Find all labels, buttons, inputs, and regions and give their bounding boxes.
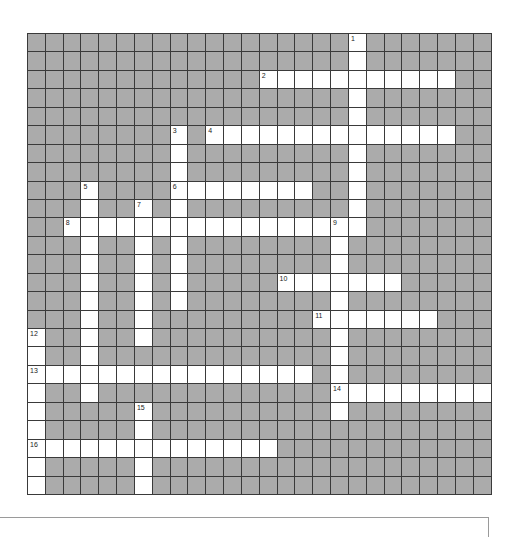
answer-cell[interactable] [205,181,223,199]
answer-cell[interactable] [348,107,366,125]
answer-cell[interactable] [223,439,241,457]
answer-cell[interactable] [348,51,366,69]
answer-cell[interactable]: 10 [277,273,295,291]
answer-cell[interactable]: 8 [63,217,81,235]
answer-cell[interactable] [259,365,277,383]
answer-cell[interactable] [45,365,63,383]
answer-cell[interactable] [348,273,366,291]
answer-cell[interactable] [170,236,188,254]
answer-cell[interactable] [80,346,98,364]
answer-cell[interactable] [312,70,330,88]
answer-cell[interactable] [27,476,45,494]
answer-cell[interactable]: 5 [80,181,98,199]
answer-cell[interactable] [277,70,295,88]
answer-cell[interactable] [455,383,473,401]
answer-cell[interactable] [170,439,188,457]
answer-cell[interactable] [419,70,437,88]
answer-cell[interactable] [134,310,152,328]
answer-cell[interactable] [223,125,241,143]
answer-cell[interactable] [294,273,312,291]
answer-cell[interactable] [170,365,188,383]
answer-cell[interactable] [294,217,312,235]
answer-cell[interactable] [80,365,98,383]
answer-cell[interactable] [134,457,152,475]
answer-cell[interactable] [205,439,223,457]
answer-cell[interactable] [98,365,116,383]
answer-cell[interactable] [80,328,98,346]
answer-cell[interactable] [27,420,45,438]
answer-cell[interactable] [80,273,98,291]
answer-cell[interactable] [277,181,295,199]
answer-cell[interactable] [401,383,419,401]
answer-cell[interactable] [187,217,205,235]
answer-cell[interactable] [330,125,348,143]
answer-cell[interactable] [152,439,170,457]
answer-cell[interactable] [419,125,437,143]
answer-cell[interactable] [437,70,455,88]
answer-cell[interactable]: 9 [330,217,348,235]
answer-cell[interactable] [170,291,188,309]
answer-cell[interactable] [223,365,241,383]
answer-cell[interactable] [116,217,134,235]
answer-cell[interactable] [134,217,152,235]
answer-cell[interactable] [134,476,152,494]
answer-cell[interactable] [80,310,98,328]
answer-cell[interactable] [170,199,188,217]
answer-cell[interactable] [384,310,402,328]
answer-cell[interactable] [80,254,98,272]
answer-cell[interactable] [259,181,277,199]
answer-cell[interactable] [419,310,437,328]
answer-cell[interactable] [134,273,152,291]
answer-cell[interactable] [330,346,348,364]
answer-cell[interactable] [401,125,419,143]
answer-cell[interactable] [277,217,295,235]
answer-cell[interactable] [80,291,98,309]
answer-cell[interactable] [27,346,45,364]
answer-cell[interactable] [80,217,98,235]
answer-cell[interactable] [366,383,384,401]
answer-cell[interactable] [134,439,152,457]
answer-cell[interactable] [437,383,455,401]
answer-cell[interactable]: 7 [134,199,152,217]
answer-cell[interactable] [205,365,223,383]
answer-cell[interactable] [241,125,259,143]
answer-cell[interactable] [170,144,188,162]
answer-cell[interactable] [366,125,384,143]
answer-cell[interactable] [348,162,366,180]
answer-cell[interactable] [223,217,241,235]
answer-cell[interactable] [27,402,45,420]
answer-cell[interactable] [366,273,384,291]
answer-cell[interactable] [330,402,348,420]
answer-cell[interactable] [45,439,63,457]
answer-cell[interactable] [330,310,348,328]
answer-cell[interactable] [134,365,152,383]
answer-cell[interactable] [187,181,205,199]
answer-cell[interactable] [152,217,170,235]
answer-cell[interactable] [348,88,366,106]
answer-cell[interactable] [330,236,348,254]
answer-cell[interactable] [80,236,98,254]
answer-cell[interactable] [312,125,330,143]
answer-cell[interactable] [348,199,366,217]
answer-cell[interactable]: 2 [259,70,277,88]
answer-cell[interactable] [294,70,312,88]
answer-cell[interactable] [384,125,402,143]
answer-cell[interactable]: 13 [27,365,45,383]
answer-cell[interactable] [277,125,295,143]
answer-cell[interactable] [170,254,188,272]
answer-cell[interactable] [473,383,491,401]
answer-cell[interactable] [98,439,116,457]
answer-cell[interactable] [134,236,152,254]
answer-cell[interactable] [63,439,81,457]
answer-cell[interactable]: 16 [27,439,45,457]
answer-cell[interactable] [241,365,259,383]
answer-cell[interactable] [330,254,348,272]
answer-cell[interactable] [134,254,152,272]
answer-cell[interactable] [384,70,402,88]
answer-cell[interactable] [348,181,366,199]
answer-cell[interactable]: 1 [348,33,366,51]
answer-cell[interactable] [187,439,205,457]
answer-cell[interactable] [330,365,348,383]
answer-cell[interactable] [312,217,330,235]
answer-cell[interactable] [98,217,116,235]
